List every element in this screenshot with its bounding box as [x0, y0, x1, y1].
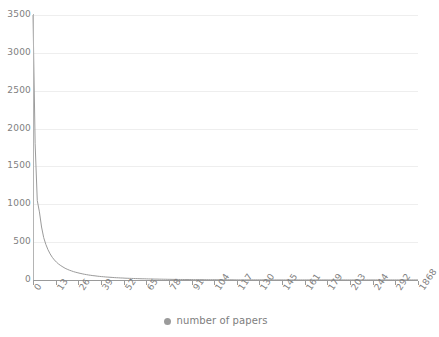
y-axis-tick-label: 500 [2, 237, 31, 246]
legend-circle-marker [164, 318, 171, 325]
y-axis-tick-label: 0 [2, 275, 31, 284]
y-axis-tick-label: 2500 [2, 86, 31, 95]
y-axis-tick-labels: 0500100015002000250030003500 [0, 0, 31, 337]
y-axis-tick-label: 1500 [2, 161, 31, 170]
y-axis-line [33, 14, 34, 281]
y-axis-tick-label: 1000 [2, 199, 31, 208]
chart-legend: number of papers [0, 316, 431, 326]
y-axis-tick-label: 2000 [2, 124, 31, 133]
legend-item-label: number of papers [177, 316, 268, 326]
y-axis-tick-label: 3500 [2, 10, 31, 19]
x-axis-tick-label: 0 [33, 282, 44, 292]
series-line-number-of-papers [33, 15, 418, 280]
y-axis-tick-label: 3000 [2, 48, 31, 57]
plot-area [33, 15, 418, 280]
x-axis-tick-label: 1868 [418, 267, 439, 292]
